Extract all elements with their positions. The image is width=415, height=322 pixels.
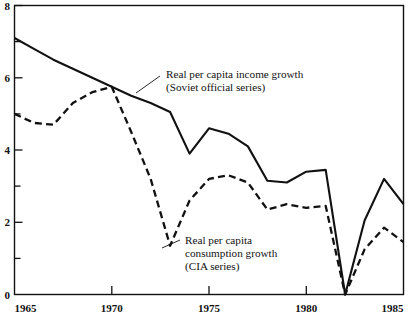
- line-chart: 8 6 4 2 0 1965 1970 1975 1980 1985 Real …: [0, 0, 415, 322]
- income-annotation-leader: [136, 76, 160, 93]
- consumption-annotation-line1: Real per capita: [185, 234, 252, 246]
- x-tick-label-1975: 1975: [198, 302, 221, 314]
- x-tick-label-1965: 1965: [15, 302, 38, 314]
- x-tick-label-1980: 1980: [295, 302, 318, 314]
- y-tick-label-0: 0: [5, 289, 11, 301]
- consumption-annotation-line2: consumption growth: [185, 247, 278, 259]
- chart-container: 8 6 4 2 0 1965 1970 1975 1980 1985 Real …: [0, 0, 415, 322]
- income-annotation-line1: Real per capita income growth: [166, 68, 304, 80]
- y-tick-label-8: 8: [5, 0, 11, 12]
- y-axis-ticks: [15, 6, 23, 259]
- y-tick-label-6: 6: [5, 72, 11, 84]
- consumption-annotation-line3: (CIA series): [185, 260, 240, 273]
- y-tick-label-4: 4: [5, 144, 11, 156]
- x-tick-label-1985: 1985: [382, 302, 405, 314]
- y-tick-label-2: 2: [5, 216, 11, 228]
- x-tick-label-1970: 1970: [101, 302, 124, 314]
- x-axis-ticks: [112, 286, 306, 295]
- income-annotation-line2: (Soviet official series): [166, 81, 265, 94]
